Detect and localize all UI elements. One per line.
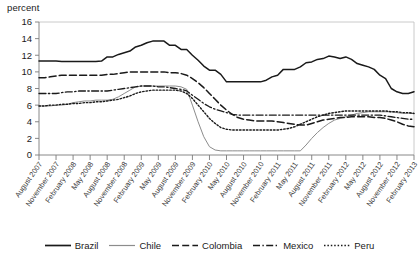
legend-item-chile[interactable]: Chile [109, 240, 161, 251]
series-line-peru [39, 90, 414, 130]
legend-label: Colombia [202, 240, 242, 251]
legend-swatch-chile [109, 241, 135, 250]
legend-label: Peru [354, 240, 374, 251]
y-tick-label: 0 [27, 149, 32, 160]
legend-label: Brazil [75, 240, 99, 251]
legend-swatch-mexico [253, 241, 279, 250]
legend-swatch-peru [324, 241, 350, 250]
y-tick-label: 4 [27, 116, 32, 127]
series-line-chile [39, 86, 414, 151]
chart-root: percent 0246810121416August 2007November… [0, 0, 419, 260]
y-tick-label: 16 [21, 16, 32, 27]
y-tick-label: 10 [21, 66, 32, 77]
chart-legend: BrazilChileColombiaMexicoPeru [0, 236, 419, 254]
line-chart-svg: 0246810121416August 2007November 2007Feb… [0, 0, 419, 236]
legend-item-brazil[interactable]: Brazil [45, 240, 99, 251]
y-tick-label: 2 [27, 133, 32, 144]
series-line-mexico [39, 86, 414, 119]
legend-swatch-brazil [45, 241, 71, 250]
legend-item-peru[interactable]: Peru [324, 240, 374, 251]
y-tick-label: 14 [21, 33, 32, 44]
series-line-brazil [39, 41, 414, 93]
y-tick-label: 12 [21, 50, 32, 61]
y-tick-label: 6 [27, 100, 32, 111]
y-tick-label: 8 [27, 83, 32, 94]
legend-item-mexico[interactable]: Mexico [253, 240, 313, 251]
series-line-colombia [39, 72, 414, 127]
legend-label: Chile [139, 240, 161, 251]
plot-area: 0246810121416August 2007November 2007Feb… [0, 0, 419, 260]
legend-swatch-colombia [172, 241, 198, 250]
legend-label: Mexico [283, 240, 313, 251]
legend-item-colombia[interactable]: Colombia [172, 240, 242, 251]
